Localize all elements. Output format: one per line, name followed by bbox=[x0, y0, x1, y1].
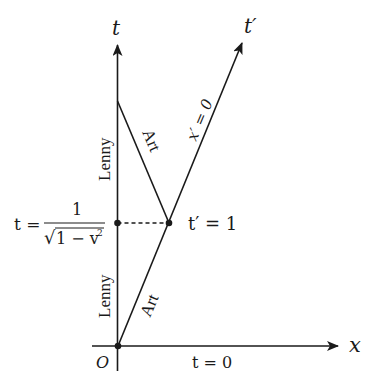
lenny-event-point bbox=[114, 220, 121, 227]
lenny-lower-label: Lenny bbox=[95, 274, 114, 318]
x-prime-zero-label: x′ = 0 bbox=[183, 96, 217, 144]
spacetime-diagram: t t′ x O t = 0 t′ = 1 t = 1 √ 1 − v 2 Le… bbox=[0, 0, 374, 381]
t-event-numerator: 1 bbox=[72, 200, 82, 219]
origin-point bbox=[115, 343, 122, 350]
t-axis-label: t bbox=[112, 16, 121, 40]
t-event-denominator: 1 − v bbox=[56, 229, 99, 248]
origin-label: O bbox=[96, 353, 109, 372]
t-event-lhs: t = bbox=[14, 214, 40, 234]
sqrt-sign: √ bbox=[44, 227, 56, 248]
t-event-denominator-exp: 2 bbox=[97, 228, 103, 238]
art-turnaround-point bbox=[166, 220, 173, 227]
t-prime-axis bbox=[118, 43, 242, 346]
lenny-upper-label: Lenny bbox=[95, 137, 114, 181]
t-prime-axis-label: t′ bbox=[244, 14, 257, 38]
art-return-label: Art bbox=[138, 126, 164, 155]
x-axis-label: x bbox=[349, 333, 361, 357]
art-return-worldline bbox=[118, 101, 170, 223]
t-prime-one-label: t′ = 1 bbox=[188, 213, 237, 234]
art-outbound-label: Art bbox=[136, 291, 162, 320]
t-zero-label: t = 0 bbox=[192, 353, 232, 372]
